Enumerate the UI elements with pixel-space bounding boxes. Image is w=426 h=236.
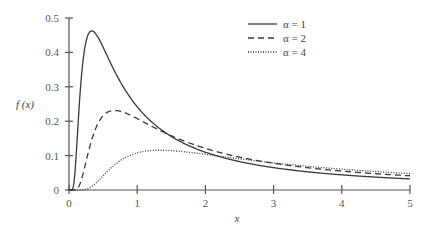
x-axis-label: x: [234, 212, 240, 224]
line-chart: 00.10.20.30.40.5 012345 f (x) x α = 1 α …: [0, 0, 426, 236]
curve-alpha-4: [69, 150, 410, 190]
x-tick-label: 5: [407, 197, 413, 209]
x-tick-label: 3: [271, 197, 277, 209]
legend-label-alpha-2: α = 2: [283, 32, 306, 44]
x-tick-label: 0: [66, 197, 72, 209]
legend-label-alpha-4: α = 4: [283, 46, 306, 58]
y-tick-label: 0.4: [45, 46, 59, 58]
x-tick-label: 2: [203, 197, 209, 209]
curve-alpha-2: [69, 110, 410, 190]
plot-area: [69, 31, 410, 190]
x-tick-label: 4: [339, 197, 345, 209]
y-axis-label: f (x): [16, 98, 34, 111]
axes: [69, 18, 410, 190]
y-tick-label: 0: [54, 184, 60, 196]
y-tick-label: 0.1: [45, 150, 59, 162]
y-tick-label: 0.5: [45, 12, 59, 24]
y-tick-label: 0.3: [45, 81, 59, 93]
x-tick-label: 1: [134, 197, 140, 209]
legend: α = 1 α = 2 α = 4: [248, 18, 306, 58]
y-tick-label: 0.2: [45, 115, 59, 127]
curve-alpha-1: [69, 31, 410, 190]
legend-label-alpha-1: α = 1: [283, 18, 306, 30]
x-ticks: 012345: [66, 185, 413, 209]
